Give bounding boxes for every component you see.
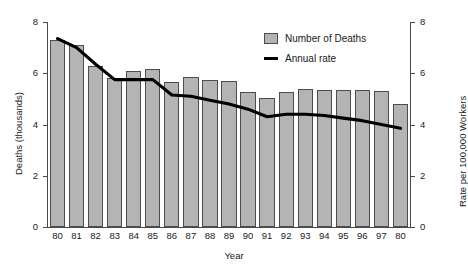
legend-label-rate: Annual rate <box>285 53 336 64</box>
legend-item-deaths: Number of Deaths <box>264 32 366 45</box>
x-tick-label: 97 <box>376 230 387 241</box>
x-axis-title: Year <box>0 250 468 261</box>
x-tick-label: 87 <box>186 230 197 241</box>
chart-figure: Deaths (thousands) Rate per 100,000 Work… <box>0 0 468 277</box>
y-tick-label-left-4: 4 <box>8 120 38 130</box>
y-tick-label-left-2: 2 <box>8 171 38 181</box>
legend-label-deaths: Number of Deaths <box>285 33 366 44</box>
x-tick-label: 83 <box>109 230 120 241</box>
x-tick-label: 86 <box>167 230 178 241</box>
x-tick-label: 80 <box>395 230 406 241</box>
legend-swatch-line-icon <box>264 57 278 60</box>
x-tick-label: 90 <box>243 230 254 241</box>
x-tick-label: 80 <box>52 230 63 241</box>
x-tick-label: 84 <box>128 230 139 241</box>
y-axis-title-left: Deaths (thousands) <box>13 92 24 175</box>
y-tick-label-right-0: 0 <box>420 222 450 232</box>
y-tick-label-right-4: 4 <box>420 120 450 130</box>
x-tick-label: 92 <box>281 230 292 241</box>
legend-item-rate: Annual rate <box>264 52 366 65</box>
x-tick-label: 82 <box>90 230 101 241</box>
y-axis-title-right: Rate per 100,000 Workers <box>457 96 468 207</box>
x-tick-label: 96 <box>357 230 368 241</box>
x-tick-label: 93 <box>300 230 311 241</box>
legend-swatch-bar-icon <box>264 33 278 44</box>
chart-legend: Number of Deaths Annual rate <box>264 32 366 72</box>
x-tick-label: 85 <box>147 230 158 241</box>
x-tick-label: 94 <box>319 230 330 241</box>
y-tick-label-left-8: 8 <box>8 17 38 27</box>
x-tick-label: 95 <box>338 230 349 241</box>
x-tick-label: 89 <box>224 230 235 241</box>
x-axis-tick-labels: 80818283848586878889909192939495969780 <box>48 230 410 246</box>
x-tick-label: 81 <box>71 230 82 241</box>
x-tick-label: 91 <box>262 230 273 241</box>
y-tick-label-left-6: 6 <box>8 68 38 78</box>
y-tick-label-right-8: 8 <box>420 17 450 27</box>
y-tick-label-right-2: 2 <box>420 171 450 181</box>
y-tick-label-left-0: 0 <box>8 222 38 232</box>
y-tick-label-right-6: 6 <box>420 68 450 78</box>
x-tick-label: 88 <box>205 230 216 241</box>
